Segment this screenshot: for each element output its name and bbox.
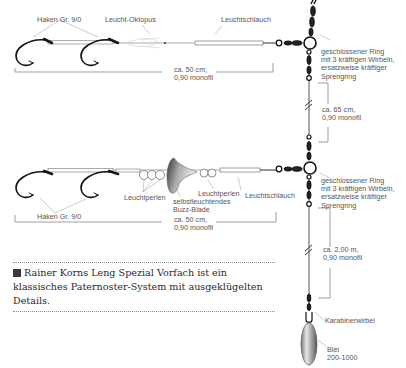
length-line2: 0,90 monofil (174, 74, 213, 82)
lower-swivel-chain (307, 175, 312, 206)
closed-ring-icon (304, 162, 316, 174)
hook-icon (81, 171, 118, 197)
top-hooks-label: Haken Gr. 9/0 (37, 16, 81, 24)
side-swivel-chain (276, 40, 302, 46)
snap-swivel-label: Karabinerwirbel (325, 317, 375, 325)
glow-tube (195, 41, 263, 45)
glow-tube (220, 168, 260, 172)
hook-icon (16, 39, 52, 65)
top-tube-label: Leuchtschlauch (221, 16, 271, 24)
sinker-line2: 200-1000 (327, 354, 357, 362)
top-rig (15, 0, 330, 80)
top-swivel-chain (309, 0, 316, 36)
glow-beads (140, 171, 165, 180)
buzz-blade-icon (167, 158, 197, 193)
closed-ring-icon (304, 37, 316, 49)
length-line2: 0,90 monofil (323, 254, 362, 262)
buzz-blade-label: selbstleuchtendes Buzz-Blade (173, 198, 231, 214)
sinker-icon (301, 323, 317, 365)
bottom-ring-label: geschlossener Ring mit 3 kräftigen Wirbe… (321, 177, 395, 210)
upper-swivel-chain (307, 135, 311, 160)
bottom-tube-label: Leuchtschlauch (245, 192, 295, 200)
top-ring-label: geschlossener Ring mit 3 kräftigen Wirbe… (321, 48, 395, 81)
glow-octopus-label: Leucht-Oktopus (105, 16, 156, 24)
beads-label-left: Leuchtperlen (124, 194, 166, 202)
sinker-label: Blei 200-1000 (327, 346, 357, 362)
snap-swivel-icon (306, 294, 312, 322)
square-bullet-icon (13, 269, 21, 277)
middle-length-label: ca. 65 cm, 0,90 monofil (322, 106, 361, 122)
lower-swivel-chain (307, 50, 312, 80)
ring-line4: Sprengring (321, 73, 395, 81)
beads-label-right: Leuchtperlen (198, 190, 240, 198)
hook-icon (16, 171, 52, 197)
bottom-hooks-label: Haken Gr. 9/0 (37, 213, 81, 221)
length-line2: 0,90 monofil (322, 114, 361, 122)
top-length-label: ca. 50 cm, 0,90 monofil (174, 66, 213, 82)
caption: Rainer Korns Leng Spezial Vorfach ist ei… (13, 262, 275, 312)
blade-line2: Buzz-Blade (173, 206, 231, 214)
ring-line4: Sprengring (321, 202, 395, 210)
caption-text: Rainer Korns Leng Spezial Vorfach ist ei… (13, 267, 263, 306)
side-swivel-chain (276, 166, 302, 172)
lower-length-label: ca. 2,00 m, 0,90 monofil (323, 246, 362, 262)
bottom-length-label: ca. 50 cm, 0,90 monofil (174, 216, 213, 232)
length-line2: 0,90 monofil (174, 224, 213, 232)
